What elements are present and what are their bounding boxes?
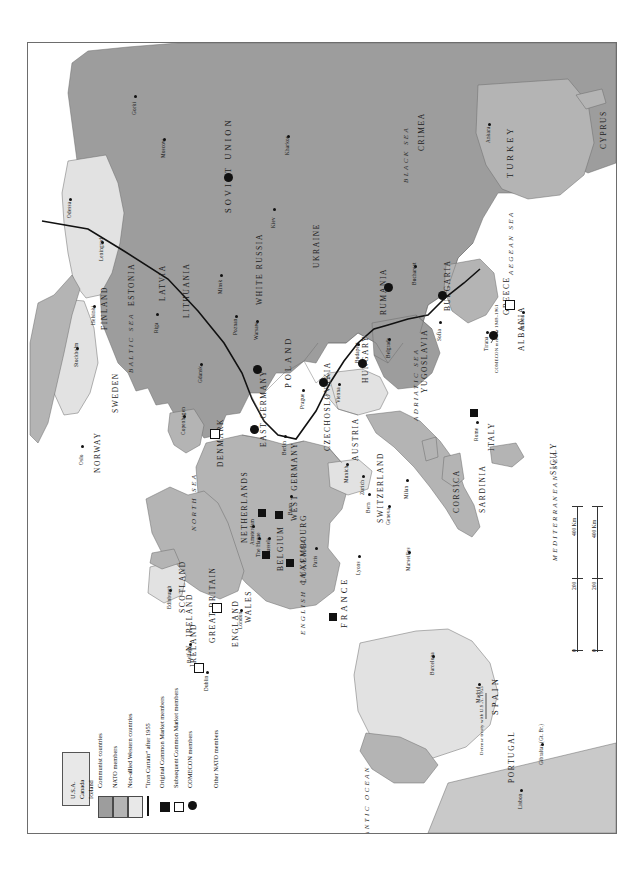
city-dot [476, 421, 479, 424]
city-dot [134, 95, 137, 98]
city-label-helsinki: Helsinki [91, 306, 96, 325]
city-label-bucharest: Bucharest [412, 262, 417, 285]
marker-comecon-bulgaria [438, 291, 447, 300]
city-dot [368, 493, 371, 496]
sea-label-atlantic-ocean: ATLANTIC OCEAN [364, 765, 371, 834]
sea-label-baltic-sea: BALTIC SEA [128, 312, 135, 373]
city-dot [220, 274, 223, 277]
city-label-stockholm: Stockholm [74, 343, 79, 367]
country-label-east-germany: EAST GERMANY [260, 369, 268, 447]
legend-swatch-communist [98, 796, 113, 818]
city-dot [156, 313, 159, 316]
country-label-portugal: PORTUGAL [508, 731, 516, 783]
country-label-crimea: CRIMEA [418, 112, 426, 151]
sea-label-english-channel: ENGLISH CHANNEL [300, 537, 307, 635]
legend-label-nato: NATO members [111, 746, 118, 788]
country-label-france: FRANCE [340, 576, 349, 628]
city-label-bern: Bern [366, 502, 371, 513]
sea-label-north-sea: NORTH SEA [191, 473, 198, 531]
country-label-norway: NORWAY [94, 432, 102, 473]
scale-tick-2b [592, 578, 603, 579]
city-dot [302, 389, 305, 392]
country-label-austria: AUSTRIA [352, 417, 360, 461]
city-label-lyons: Lyons [356, 561, 361, 575]
marker-subsequent-ireland [194, 663, 204, 673]
city-label-marseilles: Marseilles [406, 547, 411, 571]
city-label-lisbon: Lisbon [518, 793, 523, 809]
country-label-belgium: BELGIUM [277, 526, 285, 571]
sea-label-aegean-sea: AEGEAN SEA [508, 210, 515, 275]
city-dot [315, 547, 318, 550]
country-label-wales: WALES [245, 590, 253, 623]
city-label-copenhagen: Copenhagen [181, 407, 186, 435]
sea-label-black-sea: BLACK SEA [403, 126, 410, 183]
city-label-dublin: Dublin [204, 675, 209, 691]
legend-label-comecon: COMECON members [186, 731, 193, 788]
marker-subsequent-greece [505, 300, 515, 310]
legend-swatch-nato [113, 796, 128, 818]
city-label-oslo: Oslo [79, 454, 84, 465]
landmass-greece [444, 259, 498, 323]
marker-common-market-belgium [262, 551, 270, 559]
city-dot [338, 383, 341, 386]
city-label-gorki: Gorki [132, 102, 137, 115]
country-label-ukraine: UKRAINE [313, 223, 321, 268]
country-label-lithuania: LITHUANIA [183, 262, 191, 318]
country-label-denmark: DENMARK [217, 418, 225, 467]
city-label-munich: Munich [344, 466, 349, 483]
city-label-zurich: Zurich [360, 480, 365, 495]
country-label-white-russia: WHITE RUSSIA [256, 233, 264, 305]
city-label-gdansk: Gdansk [198, 366, 203, 383]
country-label-yugoslavia: YUGOSLAVIA [421, 329, 429, 393]
marker-subsequent-denmark [210, 429, 220, 439]
legend-label-iron-curtain: “Iron Curtain” after 1955 [144, 723, 151, 788]
country-label-turkey: TURKEY [506, 126, 515, 178]
city-dot [358, 555, 361, 558]
city-dot [284, 435, 287, 438]
legend-label-subsequent-common-market: Subsequent Common Market members [172, 688, 179, 788]
country-label-czechoslovakia: CZECHOSLOVAKIA [324, 361, 332, 451]
scale-label2-200-km: 200 [591, 582, 597, 590]
legend-label-original-common-market: Original Common Market members [158, 696, 165, 788]
other-nato-members-box: U.S.A. Canada Iceland [62, 752, 90, 806]
city-label-edinburgh: Edinburgh [167, 585, 172, 609]
city-dot [81, 445, 84, 448]
city-label-milan: Milan [404, 486, 409, 499]
city-label-poznan: Poznan [233, 319, 238, 335]
scale-tick-1b [572, 578, 583, 579]
other-nato-usa: U.S.A. [69, 781, 76, 799]
city-label-kharkov: Kharkov [285, 135, 290, 155]
country-label-sardinia: SARDINIA [479, 464, 487, 513]
country-label-bulgaria: BULGARIA [444, 259, 452, 311]
legend: Communist countries NATO members Non-all… [46, 636, 166, 836]
legend-label-communist: Communist countries [96, 733, 103, 788]
marker-comecon-czechoslovakia [319, 378, 328, 387]
marker-comecon-east-germany [250, 425, 259, 434]
marker-comecon-soviet-union [224, 173, 233, 182]
scale-label-400-km: 400 Km [571, 518, 577, 536]
legend-swatch-iron-curtain [147, 796, 149, 816]
marker-comecon-hungary [358, 359, 367, 368]
marker-common-market-netherlands [258, 509, 266, 517]
city-label-sofia: Sofia [437, 329, 442, 341]
city-dot [522, 311, 525, 314]
city-label-london: London [238, 612, 243, 629]
city-label-vienna: Vienna [336, 387, 341, 403]
city-label-minsk: Minsk [218, 280, 223, 294]
city-dot [406, 479, 409, 482]
city-label-riga: Riga [154, 322, 159, 333]
marker-comecon-poland [253, 365, 262, 374]
city-label-athens: Athens [520, 315, 525, 331]
city-dot [520, 789, 523, 792]
city-dot [290, 495, 293, 498]
country-label-cyprus: CYPRUS [600, 110, 608, 149]
scale-label2-400-km: 400 Km [591, 520, 597, 538]
landmass-north-africa [428, 743, 616, 833]
city-dot [439, 321, 442, 324]
city-label-rome: Rome [474, 428, 479, 441]
city-label-berlin: Berlin [282, 441, 287, 455]
country-label-corsica: CORSICA [453, 469, 461, 513]
country-label-soviet-union: SOVIET UNION [224, 117, 233, 213]
city-label-bonn: Bonn [288, 503, 293, 515]
scale-label2-0-km: 0 [591, 649, 597, 652]
